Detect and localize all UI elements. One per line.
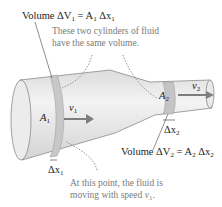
volume-1-label: Volume ΔV1 = A1 Δx1 — [22, 10, 115, 22]
dx-2-label: Δx2 — [164, 124, 180, 136]
bottom-note-line-2: moving with speed v1. — [70, 190, 155, 201]
top-note-line-1: These two cylinders of fluid — [52, 26, 159, 37]
volume-2-label: Volume ΔV2 = A2 Δx2 — [121, 146, 214, 158]
area-2-label: A2 — [159, 90, 169, 102]
area-1-label: A1 — [40, 112, 50, 124]
pipe-inlet — [11, 80, 31, 160]
velocity-1-label: v1 — [69, 102, 77, 114]
bottom-note-line-1: At this point, the fluid is — [70, 178, 163, 189]
velocity-2-label: v2 — [192, 80, 200, 92]
top-note-line-2: have the same volume. — [52, 38, 139, 49]
dx-1-label: Δx1 — [48, 164, 64, 176]
